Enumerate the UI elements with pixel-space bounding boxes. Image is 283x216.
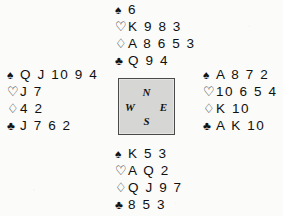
north-hearts-cards: K 9 8 3	[128, 20, 182, 34]
west-clubs-row: ♣ J 7 6 2	[7, 119, 98, 136]
east-spades-row: ♠ A 8 7 2	[203, 68, 278, 85]
south-hearts-cards: A Q 2	[128, 164, 170, 178]
club-icon: ♣	[7, 120, 20, 132]
north-spades-row: ♠ 6	[115, 3, 196, 20]
heart-icon: ♡	[115, 21, 128, 34]
east-clubs-cards: A K 10	[216, 119, 265, 133]
west-hearts-row: ♡ J 7	[7, 85, 98, 102]
compass-west-label: W	[125, 101, 135, 112]
west-spades-cards: Q J 10 9 4	[20, 68, 98, 82]
east-hearts-cards: 10 6 5 4	[216, 85, 278, 99]
club-icon: ♣	[203, 120, 216, 132]
heart-icon: ♡	[7, 86, 20, 99]
north-spades-cards: 6	[128, 3, 137, 17]
east-diamonds-row: ♢ K 10	[203, 102, 278, 119]
north-clubs-cards: Q 9 4	[128, 54, 169, 68]
east-hearts-row: ♡ 10 6 5 4	[203, 85, 278, 102]
west-spades-row: ♠ Q J 10 9 4	[7, 68, 98, 85]
compass-east-label: E	[160, 101, 167, 112]
club-icon: ♣	[115, 199, 128, 211]
heart-icon: ♡	[203, 86, 216, 99]
diamond-icon: ♢	[203, 103, 216, 116]
east-clubs-row: ♣ A K 10	[203, 119, 278, 136]
west-hearts-cards: J 7	[20, 85, 43, 99]
compass-box: N W E S	[118, 78, 175, 135]
diamond-icon: ♢	[115, 38, 128, 51]
club-icon: ♣	[115, 55, 128, 67]
south-spades-cards: K 5 3	[128, 147, 168, 161]
hand-south: ♠ K 5 3 ♡ A Q 2 ♢ Q J 9 7 ♣ 8 5 3	[115, 147, 183, 215]
spade-icon: ♠	[115, 148, 128, 160]
compass-north-label: N	[143, 87, 151, 98]
spade-icon: ♠	[203, 69, 216, 81]
west-diamonds-cards: 4 2	[20, 102, 44, 116]
diamond-icon: ♢	[7, 103, 20, 116]
hand-east: ♠ A 8 7 2 ♡ 10 6 5 4 ♢ K 10 ♣ A K 10	[203, 68, 278, 136]
east-diamonds-cards: K 10	[216, 102, 250, 116]
north-hearts-row: ♡ K 9 8 3	[115, 20, 196, 37]
spade-icon: ♠	[7, 69, 20, 81]
west-diamonds-row: ♢ 4 2	[7, 102, 98, 119]
south-hearts-row: ♡ A Q 2	[115, 164, 183, 181]
south-spades-row: ♠ K 5 3	[115, 147, 183, 164]
compass-south-label: S	[143, 116, 149, 127]
south-clubs-row: ♣ 8 5 3	[115, 198, 183, 215]
spade-icon: ♠	[115, 4, 128, 16]
north-diamonds-cards: A 8 6 5 3	[128, 37, 196, 51]
hand-north: ♠ 6 ♡ K 9 8 3 ♢ A 8 6 5 3 ♣ Q 9 4	[115, 3, 196, 71]
diamond-icon: ♢	[115, 182, 128, 195]
north-diamonds-row: ♢ A 8 6 5 3	[115, 37, 196, 54]
bridge-deal-diagram: ♠ 6 ♡ K 9 8 3 ♢ A 8 6 5 3 ♣ Q 9 4 ♠ Q J …	[0, 0, 283, 216]
east-spades-cards: A 8 7 2	[216, 68, 269, 82]
west-clubs-cards: J 7 6 2	[20, 119, 72, 133]
south-diamonds-cards: Q J 9 7	[128, 181, 183, 195]
north-clubs-row: ♣ Q 9 4	[115, 54, 196, 71]
hand-west: ♠ Q J 10 9 4 ♡ J 7 ♢ 4 2 ♣ J 7 6 2	[7, 68, 98, 136]
heart-icon: ♡	[115, 165, 128, 178]
south-diamonds-row: ♢ Q J 9 7	[115, 181, 183, 198]
south-clubs-cards: 8 5 3	[128, 198, 166, 212]
